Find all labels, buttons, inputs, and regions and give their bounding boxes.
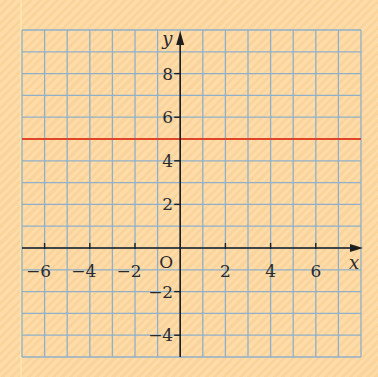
x-tick-label: −2 <box>116 261 141 281</box>
y-tick-label: 2 <box>162 194 173 214</box>
origin-label: O <box>159 252 173 272</box>
y-axis-label: y <box>161 28 173 49</box>
x-tick-label: 2 <box>220 261 231 281</box>
y-tick-label: −4 <box>148 325 173 345</box>
y-tick-label: 8 <box>162 64 173 84</box>
x-tick-label: −4 <box>71 261 96 281</box>
x-tick-label: −6 <box>26 261 51 281</box>
y-tick-label: 4 <box>162 151 173 171</box>
x-axis-label: x <box>349 252 359 273</box>
x-tick-label: 6 <box>310 261 321 281</box>
coordinate-plane: −6−4−22468642−2−4Oxy <box>0 0 378 377</box>
y-axis-arrow-icon <box>176 31 184 45</box>
y-tick-label: 6 <box>162 107 173 127</box>
x-tick-label: 4 <box>265 261 276 281</box>
y-tick-label: −2 <box>148 282 173 302</box>
